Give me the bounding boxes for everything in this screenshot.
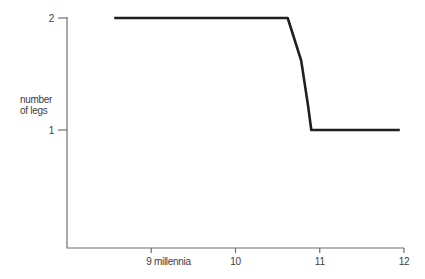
x-tick-label: 10: [230, 256, 241, 267]
y-tick-label: 2: [49, 13, 55, 24]
x-tick-label: 12: [399, 256, 410, 267]
x-tick-label: 9 millennia: [146, 256, 191, 267]
chart-canvas: 219 millennia101112: [0, 0, 425, 279]
y-tick-label: 1: [49, 125, 55, 136]
chart-figure: 219 millennia101112 number of legs: [0, 0, 425, 279]
data-line: [114, 18, 400, 130]
axes: [67, 17, 404, 248]
x-tick-label: 11: [315, 256, 326, 267]
y-axis-title: number of legs: [20, 95, 58, 116]
